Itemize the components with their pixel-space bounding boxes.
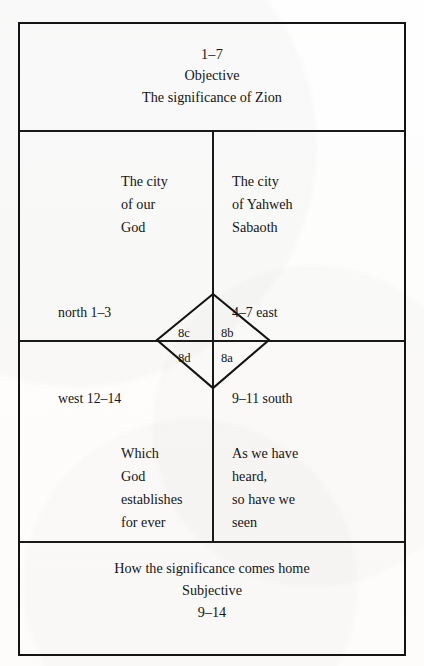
- quadrant-bottom-right-line-4: seen: [232, 511, 298, 534]
- footer-verses: 9–14: [198, 601, 226, 623]
- quadrant-top-right-line-2: of Yahweh: [232, 193, 293, 216]
- diamond-label-top-left: 8c: [178, 327, 190, 340]
- header-verses: 1–7: [201, 44, 223, 66]
- header-mode: Objective: [184, 65, 239, 87]
- quadrant-bottom-left-line-2: God: [121, 465, 182, 488]
- quadrant-bottom-left-text: Which God establishes for ever: [121, 442, 182, 534]
- header-band: 1–7 Objective The significance of Zion: [20, 24, 404, 132]
- footer-band: How the significance comes home Subjecti…: [20, 542, 404, 654]
- quadrant-bottom-right-line-1: As we have: [232, 442, 298, 465]
- diamond-label-bottom-right: 8a: [221, 352, 233, 365]
- footer-mode: Subjective: [182, 579, 242, 601]
- direction-label-west: west 12–14: [58, 392, 121, 406]
- diamond-label-top-right: 8b: [221, 327, 234, 340]
- quadrant-bottom-right-line-2: heard,: [232, 465, 298, 488]
- quadrant-top-right-line-1: The city: [232, 170, 293, 193]
- quadrant-top-left-line-3: God: [121, 216, 168, 239]
- central-diamond: 8c 8b 8d 8a: [155, 288, 275, 396]
- footer-description: How the significance comes home: [114, 557, 309, 579]
- quadrant-bottom-left-line-1: Which: [121, 442, 182, 465]
- diamond-label-bottom-left: 8d: [178, 352, 191, 365]
- quadrant-bottom-left-line-3: establishes: [121, 488, 182, 511]
- diamond-shape-icon: [155, 288, 275, 396]
- quadrant-top-left-line-1: The city: [121, 170, 168, 193]
- direction-label-north: north 1–3: [58, 306, 111, 320]
- quadrant-bottom-left-line-4: for ever: [121, 511, 182, 534]
- quadrant-bottom-right-text: As we have heard, so have we seen: [232, 442, 298, 534]
- quadrant-top-right-text: The city of Yahweh Sabaoth: [232, 170, 293, 239]
- quadrant-top-left-text: The city of our God: [121, 170, 168, 239]
- scanned-page: 1–7 Objective The significance of Zion T…: [0, 0, 424, 666]
- quadrant-top-left-line-2: of our: [121, 193, 168, 216]
- quadrant-top-right-line-3: Sabaoth: [232, 216, 293, 239]
- diagram-frame: 1–7 Objective The significance of Zion T…: [18, 22, 406, 656]
- header-description: The significance of Zion: [142, 87, 282, 109]
- quadrant-bottom-right-line-3: so have we: [232, 488, 298, 511]
